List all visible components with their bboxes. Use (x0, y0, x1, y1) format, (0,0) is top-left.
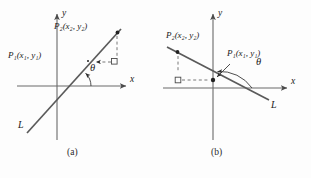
panel-a-point-P2-label: P₂(x₂, y₂) (54, 21, 87, 31)
panel-b-P1-pointer (217, 64, 230, 77)
panel-b-x-axis-label: x (291, 76, 295, 86)
panel-b-point-P2-dot (176, 50, 180, 54)
panel-b-point-P1-dot (211, 78, 215, 82)
panel-a-angle-label: θ (90, 62, 95, 73)
panel-b-point-P2-label: P₂(x₂, y₂) (166, 30, 199, 40)
panel-b-angle-label: θ (256, 56, 261, 67)
panel-a-point-P1-label: P₁(x₁, y₁) (8, 50, 41, 60)
panel-a-angle-arc (86, 73, 91, 86)
panel-b-caption: (b) (211, 147, 222, 157)
panel-a-y-axis-label: y (62, 8, 66, 18)
panel-b-angle-arc (218, 71, 253, 88)
panel-a-point-P2-dot (116, 31, 120, 35)
figure-container: x y P₂(x₂, y₂) P₁(x₁, y₁) θ L (a) x y P₂… (0, 0, 311, 178)
panel-a-right-angle-marker (112, 59, 118, 65)
panel-b-line-L-label: L (271, 99, 277, 110)
panel-a-caption: (a) (67, 147, 78, 157)
panel-a-point-P1-dot (87, 60, 89, 62)
panel-a-line-L-label: L (18, 119, 24, 130)
panel-a-line-L (27, 29, 121, 133)
diagram-canvas (0, 0, 311, 178)
panel-b-right-angle-marker (175, 77, 181, 83)
panel-a (17, 14, 126, 140)
panel-b-y-axis-label: y (218, 8, 222, 18)
panel-a-x-axis-label: x (130, 74, 134, 84)
